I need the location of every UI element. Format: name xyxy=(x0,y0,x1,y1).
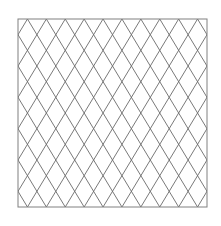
diamond-lattice-diagram xyxy=(0,0,221,226)
